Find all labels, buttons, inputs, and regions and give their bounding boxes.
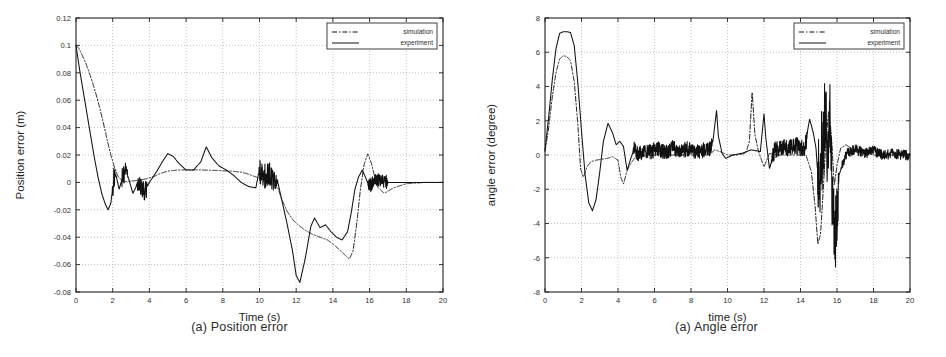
- x-tick-label: 2: [579, 296, 583, 305]
- x-tick-label: 10: [723, 296, 731, 305]
- figure-row: 02468101214161820-0.08-0.06-0.04-0.0200.…: [0, 0, 946, 357]
- x-tick-label: 18: [869, 296, 877, 305]
- y-axis-title: Position error (m): [14, 110, 26, 199]
- y-tick-label: 0.02: [56, 151, 71, 160]
- x-tick-label: 0: [543, 296, 547, 305]
- legend-label-simulation: simulation: [403, 28, 433, 35]
- caption-angle-error: (a) Angle error: [473, 320, 946, 334]
- x-tick-label: 0: [74, 296, 78, 305]
- panel-position-error: 02468101214161820-0.08-0.06-0.04-0.0200.…: [0, 0, 473, 357]
- y-tick-label: 0: [536, 151, 540, 160]
- x-tick-label: 4: [616, 296, 620, 305]
- legend-label-experiment: experiment: [400, 39, 433, 47]
- legend-label-experiment: experiment: [867, 39, 900, 47]
- x-tick-label: 16: [365, 296, 373, 305]
- x-tick-label: 12: [760, 296, 768, 305]
- y-tick-label: 0.1: [60, 41, 71, 50]
- x-tick-label: 14: [329, 296, 337, 305]
- angle-error-chart: 02468101214161820-8-6-4-202468time (s)an…: [473, 0, 946, 330]
- y-tick-label: -0.02: [54, 206, 71, 215]
- caption-position-error: (a) Position error: [0, 320, 473, 334]
- y-axis-title: angle error (degree): [485, 104, 497, 206]
- y-tick-label: 0: [67, 178, 71, 187]
- x-tick-label: 18: [402, 296, 410, 305]
- x-tick-label: 8: [221, 296, 225, 305]
- y-tick-label: -2: [533, 185, 540, 194]
- y-tick-label: -4: [533, 219, 540, 228]
- y-tick-label: -8: [533, 288, 540, 297]
- y-tick-label: -0.04: [54, 233, 71, 242]
- legend-label-simulation: simulation: [870, 28, 900, 35]
- y-tick-label: 0.12: [56, 14, 71, 23]
- y-tick-label: 4: [536, 82, 540, 91]
- panel-angle-error: 02468101214161820-8-6-4-202468time (s)an…: [473, 0, 946, 357]
- x-tick-label: 6: [652, 296, 656, 305]
- y-tick-label: -0.06: [54, 260, 71, 269]
- y-tick-label: 0.06: [56, 96, 71, 105]
- y-tick-label: 0.08: [56, 69, 71, 78]
- x-tick-label: 14: [796, 296, 804, 305]
- x-tick-label: 20: [906, 296, 914, 305]
- y-tick-label: 6: [536, 48, 540, 57]
- x-tick-label: 6: [184, 296, 188, 305]
- y-tick-label: 0.04: [56, 123, 71, 132]
- y-tick-label: 2: [536, 117, 540, 126]
- x-tick-label: 16: [833, 296, 841, 305]
- x-tick-label: 8: [689, 296, 693, 305]
- legend: simulationexperiment: [327, 23, 437, 49]
- y-tick-label: -6: [533, 254, 540, 263]
- legend: simulationexperiment: [794, 23, 904, 49]
- position-error-chart: 02468101214161820-0.08-0.06-0.04-0.0200.…: [0, 0, 473, 330]
- x-tick-label: 10: [255, 296, 263, 305]
- x-tick-label: 2: [111, 296, 115, 305]
- y-tick-label: 8: [536, 14, 540, 23]
- x-tick-label: 20: [439, 296, 447, 305]
- x-tick-label: 12: [292, 296, 300, 305]
- y-tick-label: -0.08: [54, 288, 71, 297]
- x-tick-label: 4: [147, 296, 151, 305]
